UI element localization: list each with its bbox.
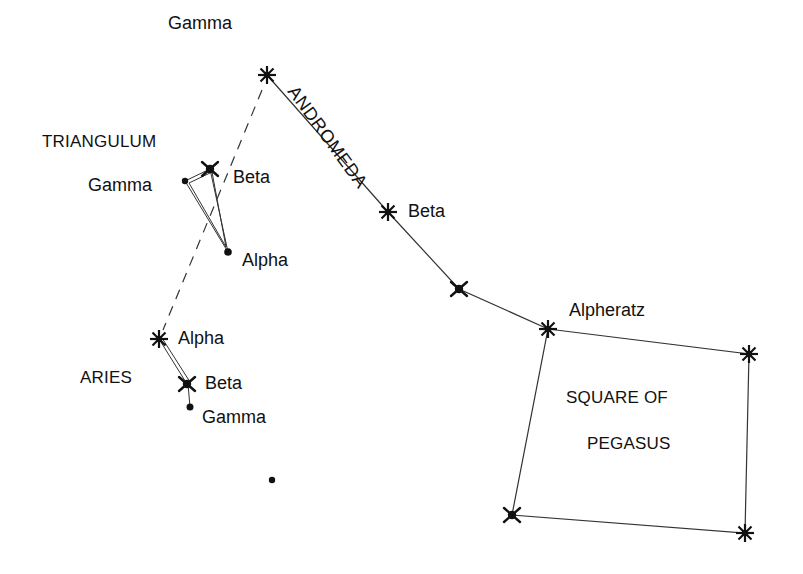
label-beta-arietis: Beta (205, 373, 242, 394)
star-chart-canvas (0, 0, 803, 574)
star-lone-icon (269, 477, 275, 483)
star-gamma-arietis-icon (187, 404, 194, 411)
pegasus-square-line (512, 329, 749, 533)
label-gamma-andromedae: Gamma (168, 13, 232, 34)
star-gamma-andromedae-icon (258, 66, 276, 84)
label-alpheratz: Alpheratz (569, 300, 645, 321)
star-alpha-trianguli-icon (224, 248, 232, 256)
label-alpha-trianguli: Alpha (242, 250, 288, 271)
triangulum-lines (185, 169, 228, 252)
label-gamma-arietis: Gamma (202, 407, 266, 428)
label-pegasus-line2: PEGASUS (587, 434, 671, 454)
label-beta-andromedae: Beta (408, 201, 445, 222)
star-beta-andromedae-icon (379, 203, 397, 221)
star-pegasus-se-icon (736, 524, 754, 542)
label-aries-title: ARIES (80, 368, 132, 388)
label-gamma-trianguli: Gamma (88, 175, 152, 196)
star-gamma-trianguli-icon (182, 178, 188, 184)
label-pegasus-line1: SQUARE OF (566, 388, 668, 408)
star-beta-trianguli-icon (202, 162, 218, 176)
star-beta-arietis-icon (179, 377, 195, 391)
star-delta-andromedae-icon (451, 282, 467, 296)
star-alpheratz-icon (539, 320, 557, 338)
star-alpha-arietis-icon (150, 330, 168, 348)
guide-line-dashed (163, 90, 262, 330)
label-alpha-arietis: Alpha (178, 328, 224, 349)
star-pegasus-ne-icon (740, 345, 758, 363)
label-beta-trianguli: Beta (233, 167, 270, 188)
label-triangulum-title: TRIANGULUM (42, 132, 156, 152)
